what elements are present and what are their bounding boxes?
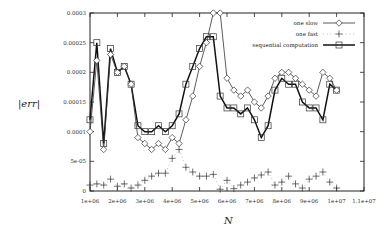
x-axis-label: N [223, 215, 234, 226]
series-sequential-computation [87, 34, 340, 147]
y-tick-label: 5e-05 [70, 158, 86, 164]
legend-label: sequential computation [252, 42, 318, 49]
y-tick-label: 0 [83, 188, 87, 194]
y-tick-label: 0.0001 [67, 129, 86, 135]
x-tick-label: 8e+06 [273, 198, 292, 204]
x-tick-label: 7e+06 [245, 198, 264, 204]
legend: one slowone fastsequential computation [252, 20, 355, 49]
legend-label: one fast [296, 31, 319, 37]
x-tick-label: 2e+06 [108, 198, 127, 204]
x-tick-label: 1e+06 [81, 198, 100, 204]
series-layer [87, 10, 341, 193]
x-tick-label: 6e+06 [218, 198, 237, 204]
error-chart: 05e-050.00010.000150.00020.000250.0003 1… [0, 0, 389, 238]
series-one-fast [87, 146, 341, 193]
x-tick-label: 1e+07 [327, 198, 346, 204]
y-tick-label: 0.0002 [67, 69, 86, 75]
y-tick-label: 0.0003 [67, 10, 87, 16]
x-tick-label: 3e+06 [136, 198, 155, 204]
legend-label: one slow [294, 20, 319, 26]
x-tick-label: 4e+06 [163, 198, 182, 204]
y-axis-label: |err| [18, 98, 40, 110]
x-tick-label: 5e+06 [190, 198, 209, 204]
plot-frame [90, 13, 364, 191]
y-tick-label: 0.00015 [63, 99, 86, 105]
x-tick-label: 9e+06 [300, 198, 319, 204]
x-tick-label: 1.1e+07 [352, 198, 376, 204]
y-tick-label: 0.00025 [63, 40, 86, 46]
